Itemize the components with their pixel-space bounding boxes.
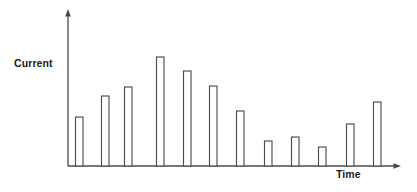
y-axis-arrow-icon bbox=[65, 9, 71, 17]
pulse-bar bbox=[184, 71, 192, 166]
pulse-bar bbox=[157, 57, 165, 166]
pulse-bar bbox=[102, 96, 110, 166]
pulse-bar bbox=[125, 87, 133, 166]
pulse-bar bbox=[237, 111, 245, 166]
chart-plot-area bbox=[0, 0, 417, 192]
pulse-bar bbox=[374, 102, 382, 166]
pulse-bar bbox=[292, 137, 300, 166]
pulse-bars-group bbox=[76, 57, 382, 166]
pulse-bar bbox=[265, 141, 273, 166]
pulse-bar bbox=[319, 147, 327, 166]
x-axis-arrow-icon bbox=[394, 163, 402, 169]
x-axis-label: Time bbox=[336, 168, 361, 180]
current-vs-time-chart: Current Time bbox=[0, 0, 417, 192]
pulse-bar bbox=[76, 117, 84, 166]
pulse-bar bbox=[347, 124, 355, 166]
y-axis bbox=[65, 9, 71, 166]
pulse-bar bbox=[210, 86, 218, 166]
y-axis-label: Current bbox=[14, 57, 53, 69]
